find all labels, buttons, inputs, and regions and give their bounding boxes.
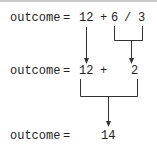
arrowhead-icon [106,121,111,127]
bracket-12-plus-2 [81,79,138,97]
arrowhead-icon [129,58,134,64]
connector-lines [0,0,157,144]
bracket-6-div-3 [115,26,143,41]
arrowhead-icon [84,58,89,64]
